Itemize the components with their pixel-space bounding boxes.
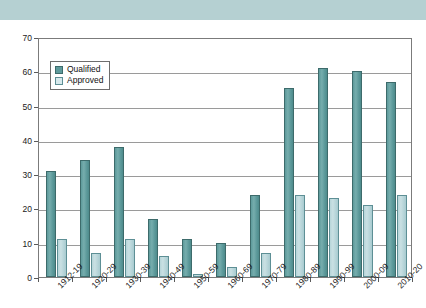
- x-axis-tick-mark: [174, 278, 175, 282]
- bar-qualified-2010-20: [386, 82, 396, 277]
- bar-qualified-2000-09: [352, 71, 362, 277]
- legend-swatch-icon: [55, 66, 63, 74]
- x-axis-tick-mark: [276, 278, 277, 282]
- legend-swatch-icon: [55, 77, 63, 85]
- bar-qualified-1990-99: [318, 68, 328, 277]
- y-axis-tick-label: 0: [2, 274, 32, 283]
- bar-approved-1912-19: [57, 239, 67, 277]
- y-axis-tick-label: 40: [2, 137, 32, 146]
- legend-item-qualified[interactable]: Qualified: [55, 64, 103, 75]
- x-axis-tick-mark: [344, 278, 345, 282]
- y-axis-tick-label: 70: [2, 34, 32, 43]
- x-axis-tick-mark: [412, 278, 413, 282]
- bar-qualified-1960-69: [216, 243, 226, 277]
- bar-approved-1980-89: [295, 195, 305, 277]
- y-axis-tick-label: 10: [2, 240, 32, 249]
- x-axis-tick-mark: [140, 278, 141, 282]
- chart-legend: QualifiedApproved: [50, 61, 110, 90]
- bar-qualified-1920-29: [80, 160, 90, 277]
- x-axis-tick-mark: [310, 278, 311, 282]
- legend-item-approved[interactable]: Approved: [55, 75, 103, 86]
- y-axis-tick-label: 60: [2, 68, 32, 77]
- header-band: [0, 0, 426, 20]
- bar-qualified-1980-89: [284, 88, 294, 277]
- chart-page: 010203040506070 1912-191920-291930-39194…: [0, 0, 426, 308]
- y-axis-tick-label: 20: [2, 205, 32, 214]
- bar-qualified-1930-39: [114, 147, 124, 277]
- bar-qualified-1912-19: [46, 171, 56, 277]
- x-axis-tick-mark: [208, 278, 209, 282]
- x-axis-tick-mark: [106, 278, 107, 282]
- legend-label: Qualified: [67, 65, 101, 74]
- x-axis-tick-mark: [242, 278, 243, 282]
- bar-approved-1930-39: [125, 239, 135, 277]
- y-axis-tick-label: 30: [2, 171, 32, 180]
- bar-approved-1990-99: [329, 198, 339, 277]
- x-axis-tick-mark: [72, 278, 73, 282]
- bar-chart-figure: 010203040506070 1912-191920-291930-39194…: [0, 20, 426, 308]
- y-axis-tick-label: 50: [2, 103, 32, 112]
- bar-approved-2010-20: [397, 195, 407, 277]
- x-axis-tick-mark: [38, 278, 39, 282]
- legend-label: Approved: [67, 76, 103, 85]
- bar-approved-2000-09: [363, 205, 373, 277]
- x-axis-tick-mark: [378, 278, 379, 282]
